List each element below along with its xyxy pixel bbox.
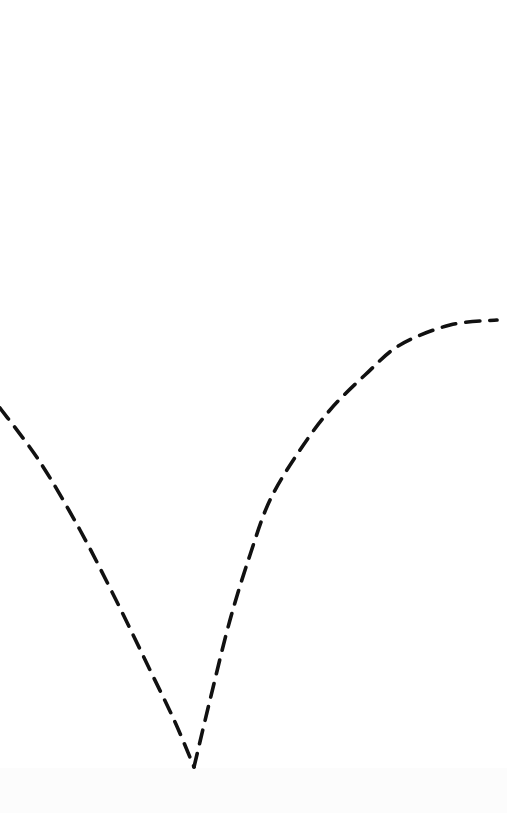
diagram-canvas <box>0 0 507 813</box>
left-arm-dashed-curve <box>0 408 194 767</box>
cusp-curve-diagram <box>0 0 507 813</box>
right-arm-dashed-curve <box>194 320 497 767</box>
